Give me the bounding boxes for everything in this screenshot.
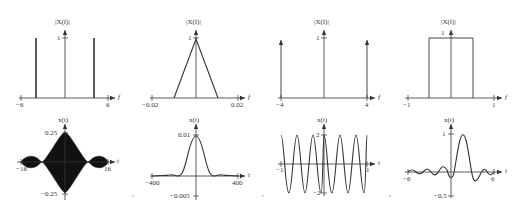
separator-comma-1: , — [132, 191, 134, 198]
panel3-time-plot — [278, 124, 375, 196]
separator-comma-3: , — [389, 191, 391, 198]
panel3-spectrum-plot — [278, 30, 375, 101]
panel1-time-plot — [17, 124, 115, 200]
panel2-time-plot — [150, 124, 245, 200]
panel4-top-xtick-min: −1 — [403, 102, 410, 109]
panel4-bottom-xtick-max: 6 — [491, 176, 495, 183]
sinc-squared-curve — [152, 136, 238, 176]
panel4-bottom-ylabel: x(t) — [444, 117, 454, 124]
panel1-bottom-ytick-max: 0.25 — [45, 130, 57, 137]
panel3-bottom-xlabel: t — [378, 160, 380, 167]
panel4-spectrum-plot — [405, 30, 502, 101]
panel1-top-ytick: 1 — [57, 35, 61, 42]
panel2-bottom-xtick-min: −400 — [145, 180, 159, 187]
panel1-top-xtick-max: 6 — [106, 102, 110, 109]
figure-canvas — [0, 0, 516, 212]
panel1-bottom-xlabel: t — [117, 158, 119, 165]
panel4-top-xlabel: f — [505, 94, 507, 101]
panel3-bottom-xtick-max: 1 — [366, 167, 370, 174]
panel1-bottom-ylabel: x(t) — [58, 117, 68, 124]
panel3-bottom-ylabel: x(t) — [317, 117, 327, 124]
panel3-bottom-ytick-max: 2 — [316, 132, 320, 139]
panel4-top-ytick: 1 — [441, 30, 445, 37]
panel4-top-xtick-max: 1 — [492, 102, 496, 109]
panel2-bottom-ytick-min: −0.005 — [170, 193, 190, 200]
panel2-top-ytick: 1 — [188, 35, 192, 42]
panel3-top-xtick-min: −4 — [276, 102, 283, 109]
modulated-envelope — [21, 132, 108, 193]
panel2-bottom-xlabel: t — [248, 172, 250, 179]
panel2-bottom-ytick-max: 0.01 — [178, 132, 190, 139]
panel4-bottom-xlabel: t — [505, 168, 507, 175]
panel1-bottom-xtick-min: −16 — [16, 166, 27, 173]
panel2-bottom-ylabel: x(t) — [189, 117, 199, 124]
panel3-top-xtick-max: 4 — [365, 102, 369, 109]
panel3-bottom-ytick-min: −2 — [313, 190, 320, 197]
panel3-top-xlabel: f — [378, 94, 380, 101]
panel1-spectrum-plot — [19, 30, 115, 101]
panel4-bottom-ytick-max: 1 — [442, 131, 446, 138]
panel1-top-xlabel: f — [118, 94, 120, 101]
panel2-top-xtick-min: −0.02 — [142, 102, 158, 109]
separator-comma-2: , — [262, 191, 264, 198]
panel2-top-xtick-max: 0.02 — [231, 102, 243, 109]
panel4-bottom-xtick-min: −6 — [403, 176, 410, 183]
panel2-spectrum-plot — [150, 30, 245, 101]
panel2-bottom-xtick-max: 400 — [232, 180, 243, 187]
panel1-top-ylabel: |X(f)| — [55, 19, 70, 26]
panel1-bottom-xtick-max: 16 — [104, 166, 111, 173]
panel4-top-ylabel: |X(f)| — [441, 19, 456, 26]
panel1-top-xtick-min: −6 — [16, 102, 23, 109]
panel3-bottom-xtick-min: −1 — [276, 167, 283, 174]
panel2-top-xlabel: f — [248, 94, 250, 101]
panel3-top-ylabel: |X(f)| — [314, 19, 329, 26]
panel1-bottom-ytick-min: −0.25 — [41, 191, 57, 198]
panel3-top-ytick: 1 — [316, 35, 320, 42]
panel2-top-ylabel: |X(f)| — [186, 19, 201, 26]
panel4-time-plot — [405, 124, 502, 198]
panel4-bottom-ytick-min: −0.5 — [434, 193, 447, 200]
